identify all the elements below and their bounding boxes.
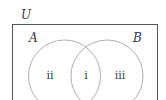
venn-diagram: U A B ii i iii	[0, 0, 166, 100]
region-a-only: ii	[46, 69, 54, 82]
region-intersection: i	[84, 69, 88, 82]
universe-label: U	[21, 8, 32, 22]
set-a-label: A	[28, 31, 38, 45]
set-b-circle	[71, 40, 143, 100]
set-b-label: B	[132, 31, 142, 45]
set-a-circle	[29, 40, 101, 100]
region-b-only: iii	[115, 69, 126, 82]
